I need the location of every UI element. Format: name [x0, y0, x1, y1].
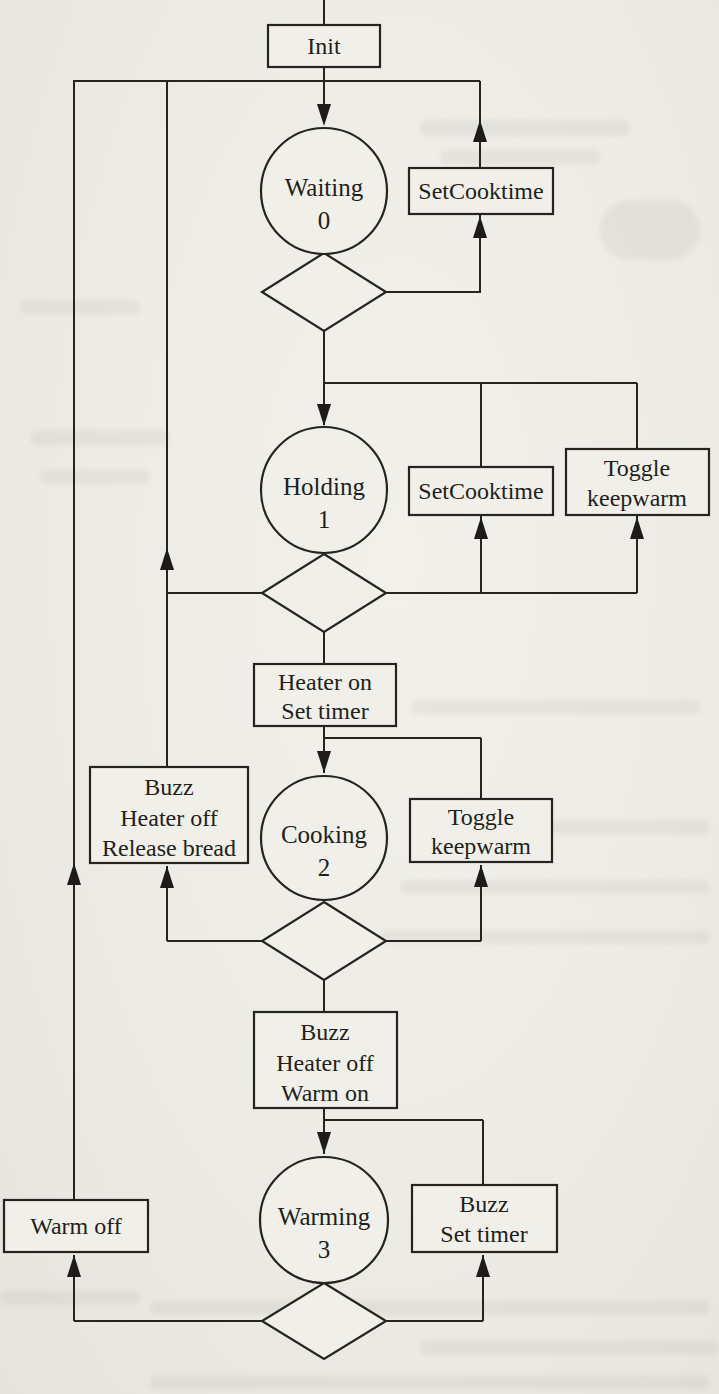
box-init-label: Init [307, 33, 341, 59]
box-toggle-keepwarm-2-line1: Toggle [448, 804, 514, 830]
box-toggle-keepwarm-1: Toggle keepwarm [566, 449, 709, 515]
box-setcooktime-2: SetCooktime [409, 467, 553, 515]
box-buzz-warm-on-line2: Heater off [276, 1050, 374, 1076]
box-toggle-keepwarm-1-line2: keepwarm [587, 485, 687, 511]
decision-diamond-waiting [262, 253, 386, 331]
arrowhead-into-cooking [317, 751, 331, 773]
box-setcooktime-1: SetCooktime [409, 168, 553, 214]
box-buzz-release-line2: Heater off [120, 805, 218, 831]
state-machine-diagram: Waiting 0 Holding 1 Cooking 2 Warming 3 … [0, 0, 719, 1394]
box-setcooktime-1-label: SetCooktime [418, 178, 543, 204]
state-holding-label: Holding [283, 473, 365, 500]
state-holding: Holding 1 [261, 427, 387, 553]
box-buzz-warm-on: Buzz Heater off Warm on [254, 1012, 397, 1108]
decision-diamond-holding [262, 554, 386, 632]
arrowhead-into-setcooktime2-bottom [474, 517, 488, 539]
box-toggle-keepwarm-2: Toggle keepwarm [410, 799, 552, 862]
state-warming-number: 3 [318, 1236, 331, 1263]
arrowhead-into-buzzrelease-bottom [160, 866, 174, 888]
state-cooking-label: Cooking [281, 821, 368, 848]
state-waiting: Waiting 0 [261, 128, 387, 254]
box-warm-off: Warm off [4, 1200, 148, 1252]
box-setcooktime-2-label: SetCooktime [418, 478, 543, 504]
box-buzz-release-line1: Buzz [144, 774, 193, 800]
box-heater-on-line2: Set timer [281, 698, 368, 724]
box-buzz-release-line3: Release bread [102, 835, 236, 861]
arrowhead-into-waiting [317, 104, 331, 126]
scanned-book-page: Waiting 0 Holding 1 Cooking 2 Warming 3 … [0, 0, 719, 1394]
box-toggle-keepwarm-2-line2: keepwarm [431, 833, 531, 859]
decision-diamond-warming [262, 1283, 386, 1359]
state-cooking-number: 2 [318, 854, 331, 881]
arrowhead-left-return-up [67, 863, 81, 885]
arrowhead-into-buzzsettimer-bottom [476, 1255, 490, 1277]
box-buzz-release-bread: Buzz Heater off Release bread [90, 767, 248, 863]
arrowhead-mid-return-up [160, 548, 174, 570]
box-buzz-set-timer-line2: Set timer [440, 1221, 527, 1247]
box-heater-on-line1: Heater on [278, 669, 372, 695]
state-warming: Warming 3 [260, 1157, 388, 1283]
state-holding-number: 1 [318, 506, 331, 533]
box-heater-on-set-timer: Heater on Set timer [254, 664, 396, 726]
arrowhead-into-togglekeepwarm2-bottom [474, 865, 488, 887]
box-buzz-set-timer: Buzz Set timer [412, 1185, 557, 1252]
state-waiting-label: Waiting [285, 174, 364, 201]
decision-diamond-cooking [262, 902, 386, 980]
connector-decision1-to-setcooktime1 [386, 215, 480, 292]
state-cooking: Cooking 2 [261, 776, 387, 900]
arrowhead-into-setcooktime1-bottom [473, 216, 487, 238]
box-buzz-set-timer-line1: Buzz [459, 1191, 508, 1217]
arrowhead-into-togglekeepwarm1-bottom [630, 517, 644, 539]
arrowhead-into-holding [317, 404, 331, 426]
arrowhead-into-warming [317, 1132, 331, 1154]
box-toggle-keepwarm-1-line1: Toggle [604, 455, 670, 481]
state-waiting-number: 0 [318, 207, 331, 234]
box-init: Init [268, 25, 380, 67]
state-warming-label: Warming [278, 1203, 371, 1230]
box-buzz-warm-on-line1: Buzz [300, 1019, 349, 1045]
box-buzz-warm-on-line3: Warm on [281, 1080, 369, 1106]
arrowhead-into-warmoff-bottom [67, 1255, 81, 1277]
box-warm-off-label: Warm off [30, 1213, 122, 1239]
